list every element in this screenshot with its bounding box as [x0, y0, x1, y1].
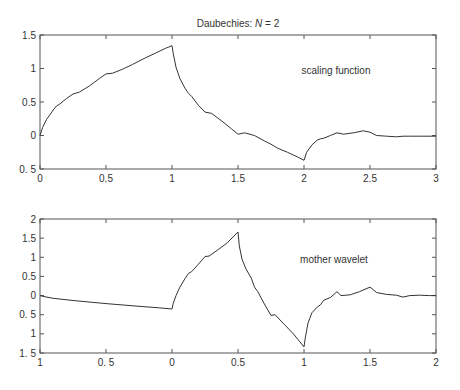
y-tick-label: 1.5	[22, 30, 36, 41]
axes-frame	[40, 219, 436, 353]
x-tick-label: 0	[37, 173, 43, 184]
x-tick-label: 1.5	[231, 173, 245, 184]
scaling-function-plot: 00.511.522.530. 500.511.5 scaling functi…	[19, 30, 439, 185]
y-tick-label: 1	[30, 328, 36, 339]
x-tick-label: 0.5	[231, 357, 245, 368]
scaling-function-annotation: scaling function	[302, 65, 371, 76]
y-tick-label: 1. 5	[19, 348, 36, 359]
x-tick-label: 2.5	[363, 173, 377, 184]
y-tick-label: 0	[30, 130, 36, 141]
x-tick-label: 0. 5	[98, 357, 115, 368]
x-tick-label: 1	[301, 357, 307, 368]
y-tick-label: 0.5	[22, 97, 36, 108]
y-tick-label: 1.5	[22, 233, 36, 244]
axis-ticks	[40, 219, 436, 353]
x-tick-label: 3	[433, 173, 439, 184]
x-tick-label: 0.5	[99, 173, 113, 184]
mother-wavelet-annotation: mother wavelet	[300, 254, 368, 265]
axis-ticks	[40, 35, 436, 169]
chart-figure: Daubechies: N = 2 00.511.522.530. 500.51…	[0, 0, 460, 390]
axes-frame	[40, 35, 436, 169]
x-tick-label: 2	[301, 173, 307, 184]
y-tick-label: 1	[30, 63, 36, 74]
y-tick-label: 1	[30, 252, 36, 263]
x-tick-label: 2	[433, 357, 439, 368]
mother-wavelet-plot: 10. 500.511.521. 510. 500.511.52 mother …	[19, 214, 439, 369]
y-tick-label: 0	[30, 290, 36, 301]
y-tick-label: 0.5	[22, 271, 36, 282]
y-tick-label: 2	[30, 214, 36, 225]
tick-labels: 10. 500.511.521. 510. 500.511.52	[19, 214, 439, 369]
scaling-function-curve	[40, 46, 436, 161]
mother-wavelet-curve	[40, 232, 436, 347]
y-tick-label: 0. 5	[19, 309, 36, 320]
tick-labels: 00.511.522.530. 500.511.5	[19, 30, 439, 185]
y-tick-label: 0. 5	[19, 164, 36, 175]
x-tick-label: 1.5	[363, 357, 377, 368]
x-tick-label: 1	[169, 173, 175, 184]
chart-title: Daubechies: N = 2	[197, 18, 280, 29]
x-tick-label: 1	[37, 357, 43, 368]
x-tick-label: 0	[169, 357, 175, 368]
